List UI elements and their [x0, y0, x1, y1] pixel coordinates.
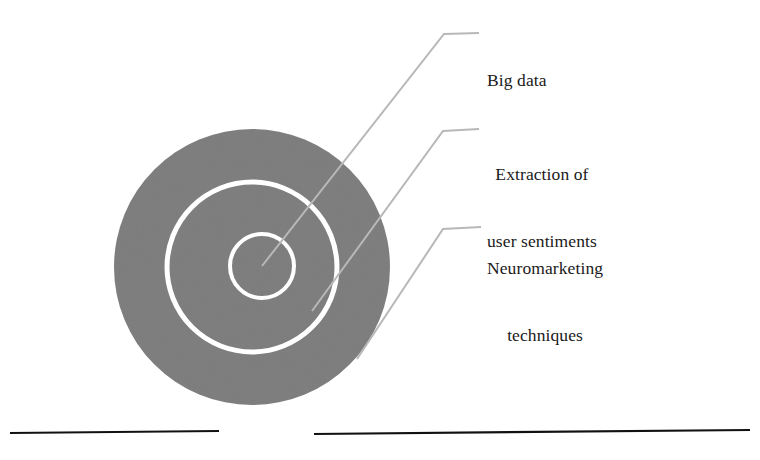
callout-label-neuromarketing-line-2: techniques [487, 324, 603, 346]
outer-disc-big-data [114, 129, 390, 405]
figure-root: Big data Extraction of user sentiments N… [0, 0, 760, 460]
concentric-circles-diagram [0, 0, 760, 460]
callout-label-neuromarketing-techniques: Neuromarketing techniques [487, 212, 603, 391]
ground-line-left-segment [10, 431, 219, 433]
callout-label-big-data-line-1: Big data [487, 69, 547, 91]
callout-label-extraction-line-1: Extraction of [487, 163, 597, 185]
callout-label-neuromarketing-line-1: Neuromarketing [487, 257, 603, 279]
ground-line-right-segment [314, 430, 750, 434]
